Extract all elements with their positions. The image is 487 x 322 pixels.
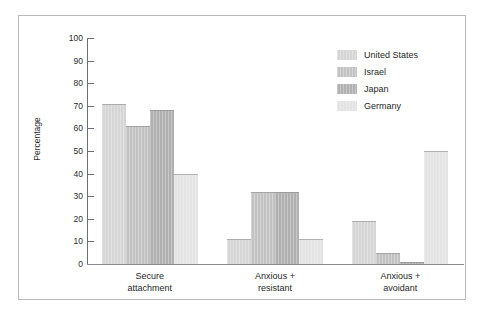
bar-japan-group-2[interactable] [275, 192, 299, 264]
chart-figure-frame: Percentage 1009080706050403020100 Secure… [18, 15, 466, 300]
bar-israel-group-2[interactable] [251, 192, 275, 264]
bar-israel-group-1[interactable] [126, 126, 150, 264]
legend-label-4: Germany [364, 101, 401, 111]
legend-item-japan[interactable]: Japan [337, 80, 457, 97]
bar-israel-group-3[interactable] [376, 253, 400, 264]
bar-japan-group-1[interactable] [150, 110, 174, 264]
y-axis-tick-label-10: 10 [57, 237, 83, 246]
legend-item-germany[interactable]: Germany [337, 97, 457, 114]
legend-item-israel[interactable]: Israel [337, 63, 457, 80]
bar-united-states-group-2[interactable] [227, 239, 251, 264]
legend-swatch-icon-4 [337, 101, 357, 111]
legend-label-1: United States [364, 50, 418, 60]
y-axis-tick-label-100: 100 [57, 34, 83, 43]
legend-swatch-icon-2 [337, 67, 357, 77]
bar-group-1 [102, 38, 198, 264]
y-axis-tick-label-50: 50 [57, 147, 83, 156]
y-axis-tick-label-60: 60 [57, 124, 83, 133]
bar-germany-group-2[interactable] [299, 239, 323, 264]
x-axis-label-3: Anxious +avoidant [335, 270, 465, 294]
y-axis-tick-label-40: 40 [57, 170, 83, 179]
bar-germany-group-3[interactable] [424, 151, 448, 264]
y-axis-title: Percentage [32, 99, 42, 179]
bar-united-states-group-1[interactable] [102, 104, 126, 264]
y-axis-tick-labels: 1009080706050403020100 [49, 16, 83, 301]
y-axis-tick-label-20: 20 [57, 215, 83, 224]
x-axis-label-2: Anxious +resistant [210, 270, 340, 294]
bar-united-states-group-3[interactable] [352, 221, 376, 264]
legend-label-2: Israel [364, 67, 386, 77]
y-axis-tick-label-70: 70 [57, 102, 83, 111]
legend-label-3: Japan [364, 84, 389, 94]
y-axis-tick-label-90: 90 [57, 57, 83, 66]
chart-legend: United StatesIsraelJapanGermany [337, 46, 457, 114]
legend-swatch-icon-1 [337, 50, 357, 60]
legend-swatch-icon-3 [337, 84, 357, 94]
legend-item-united-states[interactable]: United States [337, 46, 457, 63]
y-axis-tick-label-0: 0 [57, 260, 83, 269]
x-axis-label-1: Secureattachment [85, 270, 215, 294]
y-axis-tick-label-30: 30 [57, 192, 83, 201]
y-axis-tick-label-80: 80 [57, 79, 83, 88]
bar-group-2 [227, 38, 323, 264]
bar-japan-group-3[interactable] [400, 262, 424, 264]
x-axis-line [87, 264, 464, 265]
bar-germany-group-1[interactable] [174, 174, 198, 264]
